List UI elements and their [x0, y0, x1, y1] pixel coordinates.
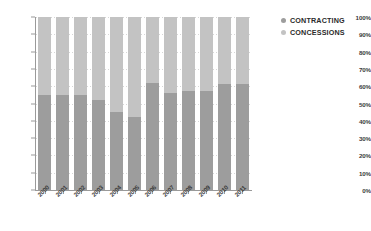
bar-segment-contracting: [74, 95, 87, 190]
bar-column: [92, 17, 105, 190]
bar-column: [218, 17, 231, 190]
bar-segment-contracting: [164, 93, 177, 190]
bar-column: [56, 17, 69, 190]
bar-column: [38, 17, 51, 190]
bar-column: [128, 17, 141, 190]
legend-label: CONCESSIONS: [290, 28, 345, 37]
y-axis-tick-label: 20%: [337, 152, 371, 159]
bar-segment-contracting: [218, 84, 231, 190]
bar-segment-contracting: [38, 95, 51, 190]
chart-legend: CONTRACTINGCONCESSIONS: [281, 16, 345, 37]
bar-column: [110, 17, 123, 190]
bar-column: [182, 17, 195, 190]
bar-segment-concessions: [164, 17, 177, 93]
bar-segment-concessions: [110, 17, 123, 112]
bar-segment-contracting: [200, 91, 213, 190]
stacked-bar-chart: 100%90%80%70%60%50%40%30%20%10%0% 200020…: [0, 0, 371, 231]
y-axis-tick-label: 60%: [337, 83, 371, 90]
bar-segment-contracting: [236, 84, 249, 190]
legend-item[interactable]: CONCESSIONS: [281, 28, 345, 37]
y-axis-line: [35, 17, 36, 191]
bar-column: [146, 17, 159, 190]
bar-column: [200, 17, 213, 190]
y-axis-tick-label: 40%: [337, 117, 371, 124]
legend-item[interactable]: CONTRACTING: [281, 16, 345, 25]
bar-segment-concessions: [182, 17, 195, 91]
bar-segment-concessions: [56, 17, 69, 95]
y-axis-tick-label: 30%: [337, 135, 371, 142]
legend-dot-icon: [281, 18, 286, 23]
y-axis-tick-label: 80%: [337, 48, 371, 55]
y-axis-tick-label: 10%: [337, 169, 371, 176]
bar-segment-concessions: [200, 17, 213, 91]
bar-segment-contracting: [110, 112, 123, 190]
bar-segment-contracting: [128, 117, 141, 190]
bar-segment-contracting: [146, 83, 159, 190]
y-axis-tick-label: 0%: [337, 187, 371, 194]
bar-segment-concessions: [74, 17, 87, 95]
bar-segment-concessions: [236, 17, 249, 84]
bar-segment-contracting: [92, 100, 105, 190]
bar-segment-concessions: [38, 17, 51, 95]
bar-column: [236, 17, 249, 190]
bar-column: [74, 17, 87, 190]
bar-segment-concessions: [146, 17, 159, 83]
bar-segment-contracting: [182, 91, 195, 190]
bar-segment-concessions: [92, 17, 105, 100]
y-axis-tick-label: 70%: [337, 65, 371, 72]
plot-area: [36, 17, 251, 190]
legend-label: CONTRACTING: [290, 16, 345, 25]
bar-segment-contracting: [56, 95, 69, 190]
bar-segment-concessions: [128, 17, 141, 117]
bar-column: [164, 17, 177, 190]
legend-dot-icon: [281, 30, 286, 35]
bar-segment-concessions: [218, 17, 231, 84]
y-axis-tick-label: 50%: [337, 100, 371, 107]
